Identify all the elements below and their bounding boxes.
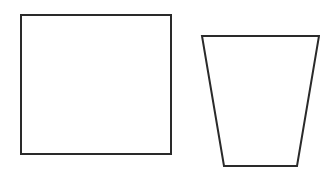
- trapezoid-shape: [202, 36, 319, 166]
- square-shape: [21, 15, 171, 154]
- diagram-canvas: [0, 0, 320, 174]
